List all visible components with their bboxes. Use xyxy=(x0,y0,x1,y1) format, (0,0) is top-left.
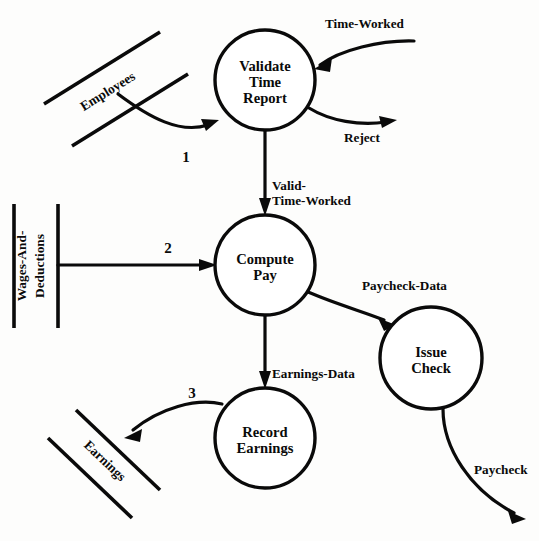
time-worked-label: Time-Worked xyxy=(325,16,405,31)
flow-earnings-data[interactable]: Earnings-Data xyxy=(259,316,355,389)
wages-store-label-line1: Wages-And- xyxy=(14,231,29,302)
reject-label: Reject xyxy=(344,130,380,145)
data-flow-diagram: Employees Wages-And- Deductions Earnings… xyxy=(0,0,539,541)
data-store-employees[interactable]: Employees xyxy=(44,32,188,146)
reject-arrowhead xyxy=(379,116,397,128)
dfd-canvas: Employees Wages-And- Deductions Earnings… xyxy=(0,0,539,541)
validate-time-report-label-line2: Time xyxy=(249,74,282,90)
reject-line xyxy=(309,108,386,123)
earnings-data-arrowhead xyxy=(259,371,271,389)
record-earnings-label-line2: Earnings xyxy=(237,440,294,456)
flow-3-number: 3 xyxy=(188,385,196,401)
flow-wages-to-compute[interactable]: 2 xyxy=(58,240,217,271)
data-store-wages-and-deductions[interactable]: Wages-And- Deductions xyxy=(14,204,58,328)
data-store-earnings[interactable]: Earnings xyxy=(48,410,160,518)
record-earnings-label-line1: Record xyxy=(242,424,287,440)
time-worked-line xyxy=(320,41,414,65)
process-compute-pay[interactable]: Compute Pay xyxy=(215,215,315,315)
issue-check-label-line1: Issue xyxy=(415,344,447,360)
valid-time-worked-label-line2: Time-Worked xyxy=(272,193,352,208)
flow-record-to-earnings[interactable]: 3 xyxy=(124,385,222,442)
time-worked-arrowhead xyxy=(314,58,332,72)
process-validate-time-report[interactable]: Validate Time Report xyxy=(215,30,315,130)
paycheck-line xyxy=(443,409,514,513)
compute-pay-label-line2: Pay xyxy=(253,267,277,283)
earnings-data-label: Earnings-Data xyxy=(272,366,355,381)
flow-3-line xyxy=(133,402,222,430)
compute-pay-label-line1: Compute xyxy=(236,251,294,267)
flow-paycheck[interactable]: Paycheck xyxy=(443,409,528,524)
validate-time-report-label-line1: Validate xyxy=(239,58,291,74)
wages-store-label-line2: Deductions xyxy=(32,234,47,298)
employees-store-label: Employees xyxy=(77,69,137,114)
flow-employees-to-validate[interactable]: 1 xyxy=(118,94,219,165)
process-issue-check[interactable]: Issue Check xyxy=(380,307,482,409)
flow-1-number: 1 xyxy=(182,149,190,165)
validate-time-report-label-line3: Report xyxy=(243,90,287,106)
flow-reject[interactable]: Reject xyxy=(309,108,397,145)
paycheck-data-line xyxy=(308,292,384,320)
flow-2-number: 2 xyxy=(164,240,172,256)
issue-check-label-line2: Check xyxy=(411,360,452,376)
paycheck-data-label: Paycheck-Data xyxy=(362,278,447,293)
paycheck-arrowhead xyxy=(508,511,526,524)
flow-valid-time-worked[interactable]: Valid- Time-Worked xyxy=(259,131,352,216)
process-record-earnings[interactable]: Record Earnings xyxy=(215,388,315,488)
valid-time-worked-label-line1: Valid- xyxy=(272,178,306,193)
flow-time-worked[interactable]: Time-Worked xyxy=(314,16,414,72)
flow-1-arrowhead xyxy=(201,119,219,131)
paycheck-label: Paycheck xyxy=(474,462,528,477)
